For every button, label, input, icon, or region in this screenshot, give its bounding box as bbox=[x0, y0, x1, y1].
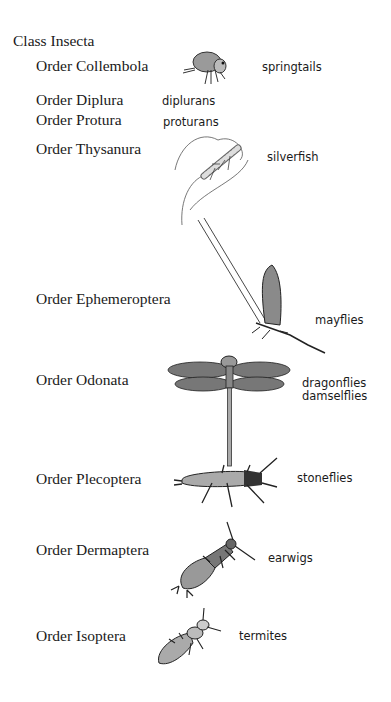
earwig-icon bbox=[165, 520, 260, 600]
order-thysanura-common: silverfish bbox=[267, 150, 319, 164]
order-ephemeroptera-common: mayflies bbox=[315, 313, 364, 327]
order-dermaptera-common: earwigs bbox=[268, 551, 313, 565]
order-plecoptera-label: Order Plecoptera bbox=[36, 470, 141, 488]
order-isoptera-label: Order Isoptera bbox=[36, 627, 126, 645]
class-title: Class Insecta bbox=[13, 32, 94, 50]
order-protura-common: proturans bbox=[163, 115, 219, 129]
stonefly-icon bbox=[172, 455, 282, 510]
order-diplura-common: diplurans bbox=[162, 94, 215, 108]
order-ephemeroptera-label: Order Ephemeroptera bbox=[36, 290, 171, 308]
order-odonata-label: Order Odonata bbox=[36, 371, 129, 389]
order-collembola-label: Order Collembola bbox=[36, 57, 148, 75]
springtail-icon bbox=[180, 48, 245, 88]
insect-orders-diagram: Class Insecta Order Collembola springtai… bbox=[0, 0, 391, 702]
order-dermaptera-label: Order Dermaptera bbox=[36, 541, 149, 559]
order-thysanura-label: Order Thysanura bbox=[36, 140, 141, 158]
mayfly-icon bbox=[190, 215, 330, 365]
termite-icon bbox=[155, 605, 225, 670]
dragonfly-icon bbox=[165, 350, 295, 470]
order-plecoptera-common: stoneflies bbox=[297, 471, 352, 485]
order-odonata-common-dragonflies: dragonflies bbox=[302, 376, 366, 390]
order-isoptera-common: termites bbox=[239, 629, 287, 643]
order-collembola-common: springtails bbox=[262, 60, 322, 74]
order-odonata-common-damselflies: damselflies bbox=[302, 389, 367, 403]
order-protura-label: Order Protura bbox=[36, 111, 122, 129]
order-diplura-label: Order Diplura bbox=[36, 91, 123, 109]
